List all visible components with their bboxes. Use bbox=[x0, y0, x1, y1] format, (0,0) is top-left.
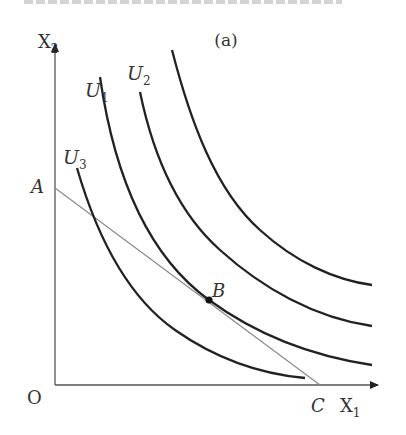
origin-label: O bbox=[27, 387, 42, 408]
indifference-curve-u2 bbox=[140, 92, 372, 326]
indifference-curve-diagram: (a) X2 X1 O A B C U1 U2 U3 bbox=[0, 0, 406, 435]
curve-label-u3: U3 bbox=[63, 146, 87, 172]
panel-label: (a) bbox=[214, 30, 237, 50]
y-axis-label: X2 bbox=[38, 31, 58, 56]
indifference-curve-u1 bbox=[100, 77, 372, 365]
indifference-curve-u3 bbox=[77, 168, 305, 378]
indifference-curve-outer bbox=[172, 50, 372, 285]
point-b-label: B bbox=[211, 280, 225, 301]
curve-label-u2: U2 bbox=[127, 62, 151, 88]
x-axis-label: X1 bbox=[340, 395, 360, 420]
point-a-label: A bbox=[29, 176, 44, 197]
point-c-label: C bbox=[311, 395, 325, 416]
curve-label-u1: U1 bbox=[85, 79, 109, 105]
